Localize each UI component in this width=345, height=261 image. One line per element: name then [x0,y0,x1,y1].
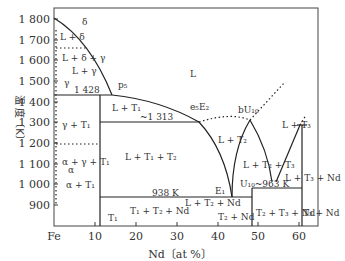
label-t1: T₁ [108,213,118,223]
x-tick: 10 [88,230,102,243]
x-tick: 50 [251,230,265,243]
label-l-t3: L + T₃ [282,120,311,130]
label-liquid: L [190,69,196,79]
y-tick: 1 800 [19,13,51,26]
x-tick: 40 [211,230,225,243]
label-l-t2: L + T₂ [218,135,247,145]
label-gamma: γ [64,78,69,88]
y-tick: 1 700 [19,34,51,47]
label-t1-t2-nd: T₁ + T₂ + Nd [130,206,190,216]
label-gamma-t1: γ + T₁ [62,120,90,130]
label-e1: E₁ [215,186,225,196]
label-1428: 1 428 [74,85,100,95]
y-tick: 1 000 [19,178,51,191]
x-axis: Fe 10 20 30 40 50 60 [47,222,306,243]
label-l-delta-gamma: L + δ + γ [62,53,105,63]
metastable-liquidus [199,116,250,122]
label-alpha: α [68,165,74,175]
y-axis-title: 温 度〔K〕 [14,95,26,145]
y-tick: 900 [29,199,50,212]
label-l-gamma: L + γ [72,66,97,76]
label-l-t2-nd: L + T₂ + Nd [185,198,241,208]
liquidus-t3-left [250,120,272,182]
label-l-t2-t3: L + T₂ + T₃ [243,160,295,170]
x-tick: 60 [292,230,306,243]
y-tick: 1 600 [19,54,51,67]
x-tick: 30 [170,230,184,243]
label-l-t3-nd: L + T₃ + Nd [285,173,341,183]
y-tick: 1 100 [19,158,51,171]
x-axis-title: Nd〔at %〕 [148,248,212,261]
label-bu10: bU₁₀ [238,105,259,115]
x-tick: Fe [47,230,61,243]
label-p5: p₅ [118,80,128,90]
label-alpha-t1: α + T₁ [66,180,95,190]
label-938: 938 K [152,188,179,198]
label-delta: δ [82,17,87,27]
label-t2-nd: T₂ + Nd [218,212,255,222]
label-l-t1-t2: L + T₁ + T₂ [125,152,177,162]
label-l-t1: L + T₁ [112,103,141,113]
label-1313: ~1 313 [140,112,174,122]
label-u10: U₁₀~963 K [240,179,289,189]
label-l-delta: L + δ [60,32,85,42]
plot-frame [54,8,318,226]
y-tick: 1 500 [19,75,51,88]
x-tick: 20 [129,230,143,243]
label-e5e2: e₅E₂ [190,102,210,112]
phase-diagram: 1 800 1 700 1 600 1 500 1 400 1 300 1 20… [0,0,345,261]
label-t3-nd: T₃ + Nd [303,208,340,218]
